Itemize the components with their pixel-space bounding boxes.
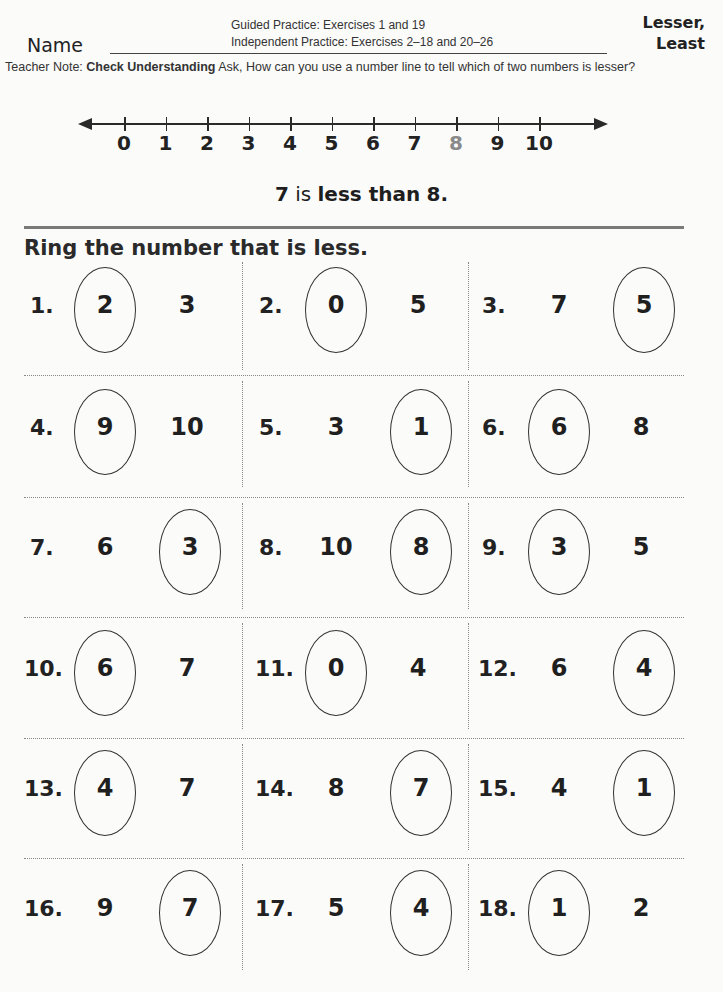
exercise-number: 8. — [259, 535, 283, 560]
choice-right[interactable]: 8 — [401, 533, 441, 561]
choice-right[interactable]: 4 — [398, 654, 438, 682]
exercise-number: 4. — [30, 415, 54, 440]
choice-left[interactable]: 1 — [539, 894, 579, 922]
statement-end: . — [441, 182, 449, 206]
choice-left[interactable]: 0 — [316, 291, 356, 319]
independent-practice-note: Independent Practice: Exercises 2–18 and… — [231, 35, 493, 49]
exercise-number: 9. — [482, 535, 506, 560]
exercise-number: 6. — [482, 415, 506, 440]
choice-right[interactable]: 7 — [167, 774, 207, 802]
choice-left[interactable]: 3 — [316, 413, 356, 441]
number-line-tick — [539, 117, 541, 131]
number-line-tick — [332, 117, 334, 131]
exercise-number: 5. — [259, 415, 283, 440]
choice-left[interactable]: 3 — [539, 533, 579, 561]
lesson-title: Lesser, Least — [642, 12, 705, 54]
exercise-item: 7.63 — [24, 505, 244, 605]
row-divider — [24, 858, 684, 859]
exercise-item: 8.108 — [255, 505, 475, 605]
exercise-number: 10. — [24, 656, 63, 681]
choice-left[interactable]: 7 — [539, 291, 579, 319]
statement-a: 7 — [275, 182, 289, 206]
choice-right[interactable]: 2 — [621, 894, 661, 922]
number-line-tick — [166, 117, 168, 131]
comparison-statement: 7 is less than 8. — [0, 182, 723, 206]
number-line-tick — [498, 117, 500, 131]
choice-left[interactable]: 9 — [85, 413, 125, 441]
choice-left[interactable]: 6 — [539, 413, 579, 441]
number-line-tick — [124, 117, 126, 131]
number-line-label: 1 — [151, 131, 181, 155]
exercise-number: 11. — [255, 656, 294, 681]
exercise-item: 9.35 — [478, 505, 698, 605]
exercise-number: 17. — [255, 896, 294, 921]
choice-right[interactable]: 1 — [401, 413, 441, 441]
choice-right[interactable]: 4 — [624, 654, 664, 682]
choice-left[interactable]: 6 — [539, 654, 579, 682]
statement-less-than: less than — [318, 182, 421, 206]
guided-practice-note: Guided Practice: Exercises 1 and 19 — [231, 18, 425, 32]
exercise-item: 3.75 — [478, 263, 698, 363]
instruction-heading: Ring the number that is less. — [24, 236, 368, 260]
lesson-title-line2: Least — [642, 33, 705, 54]
choice-right[interactable]: 1 — [624, 774, 664, 802]
choice-right[interactable]: 8 — [621, 413, 661, 441]
choice-right[interactable]: 10 — [167, 413, 207, 441]
statement-b: 8 — [427, 182, 441, 206]
exercise-item: 16.97 — [24, 866, 244, 966]
choice-right[interactable]: 5 — [398, 291, 438, 319]
name-label: Name — [27, 34, 83, 56]
exercise-number: 18. — [478, 896, 517, 921]
choice-left[interactable]: 9 — [85, 894, 125, 922]
choice-right[interactable]: 5 — [621, 533, 661, 561]
number-line-label: 10 — [524, 131, 554, 155]
exercise-item: 15.41 — [478, 746, 698, 846]
choice-left[interactable]: 10 — [316, 533, 356, 561]
number-line-label: 9 — [483, 131, 513, 155]
choice-left[interactable]: 5 — [316, 894, 356, 922]
choice-left[interactable]: 0 — [316, 654, 356, 682]
choice-left[interactable]: 8 — [316, 774, 356, 802]
exercise-number: 16. — [24, 896, 63, 921]
choice-left[interactable]: 4 — [539, 774, 579, 802]
number-line-label: 6 — [358, 131, 388, 155]
exercise-item: 18.12 — [478, 866, 698, 966]
number-line-label: 5 — [317, 131, 347, 155]
number-line-label: 2 — [192, 131, 222, 155]
teacher-note-text: Ask, How can you use a number line to te… — [215, 60, 635, 74]
choice-left[interactable]: 6 — [85, 654, 125, 682]
row-divider — [24, 738, 684, 739]
choice-left[interactable]: 2 — [85, 291, 125, 319]
row-divider — [24, 375, 684, 376]
exercise-number: 15. — [478, 776, 517, 801]
exercise-item: 13.47 — [24, 746, 244, 846]
exercise-item: 1.23 — [24, 263, 244, 363]
choice-right[interactable]: 7 — [167, 654, 207, 682]
number-line-label: 3 — [234, 131, 264, 155]
exercise-item: 4.910 — [24, 385, 244, 485]
arrow-right-icon — [594, 118, 608, 130]
choice-right[interactable]: 7 — [401, 774, 441, 802]
number-line-label: 4 — [275, 131, 305, 155]
number-line-tick — [415, 117, 417, 131]
exercise-item: 11.04 — [255, 626, 475, 726]
choice-right[interactable]: 5 — [624, 291, 664, 319]
exercise-number: 13. — [24, 776, 63, 801]
number-line-tick — [456, 117, 458, 131]
exercise-item: 14.87 — [255, 746, 475, 846]
teacher-note-prefix: Teacher Note: — [5, 60, 86, 74]
exercise-item: 12.64 — [478, 626, 698, 726]
choice-right[interactable]: 4 — [401, 894, 441, 922]
number-line-label: 7 — [400, 131, 430, 155]
exercise-number: 2. — [259, 293, 283, 318]
choice-left[interactable]: 6 — [85, 533, 125, 561]
row-divider — [24, 497, 684, 498]
choice-left[interactable]: 4 — [85, 774, 125, 802]
choice-right[interactable]: 3 — [167, 291, 207, 319]
name-field[interactable] — [110, 53, 607, 54]
exercise-item: 2.05 — [255, 263, 475, 363]
exercise-item: 5.31 — [255, 385, 475, 485]
choice-right[interactable]: 7 — [170, 894, 210, 922]
exercise-number: 1. — [30, 293, 54, 318]
choice-right[interactable]: 3 — [170, 533, 210, 561]
